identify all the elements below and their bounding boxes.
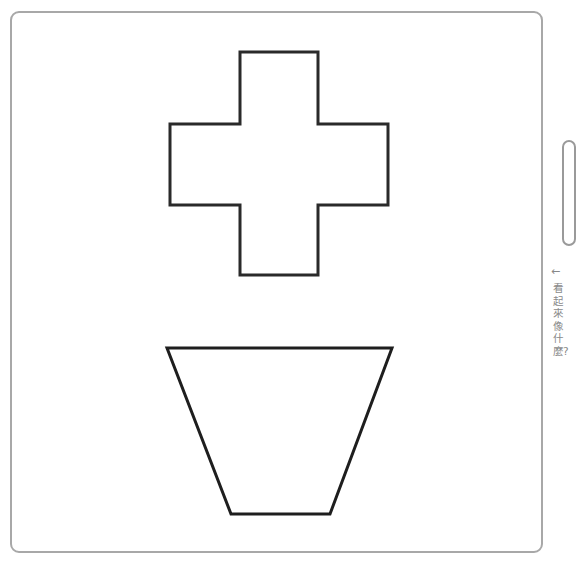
side-caption: 看起來像什麼? bbox=[553, 282, 565, 357]
trapezoid-shape bbox=[167, 348, 392, 514]
cross-shape bbox=[170, 52, 388, 275]
arrow-left-icon: ← bbox=[551, 266, 560, 277]
side-card bbox=[562, 140, 576, 246]
